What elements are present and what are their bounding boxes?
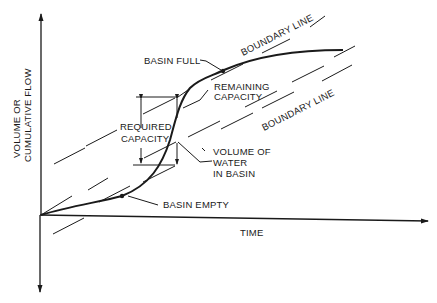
y-axis xyxy=(40,14,41,292)
diagram-canvas: VOLUME OR CUMULATIVE FLOW TIME BASIN FUL… xyxy=(0,0,437,303)
y-axis-label-line1: VOLUME OR xyxy=(11,99,22,158)
required-capacity-label-line1: REQUIRED xyxy=(120,121,172,132)
x-axis xyxy=(40,215,428,221)
y-axis-label-line2: CUMULATIVE FLOW xyxy=(22,68,33,162)
volume-water-label-line1: VOLUME OF xyxy=(213,146,271,157)
basin-full-label: BASIN FULL xyxy=(144,55,200,66)
basin-empty-point xyxy=(120,194,124,198)
basin-full-point xyxy=(221,69,225,73)
volume-water-label-line2: WATER xyxy=(213,157,247,168)
cumulative-inflow-curve xyxy=(41,50,343,215)
required-capacity-label-line2: CAPACITY xyxy=(121,133,170,144)
x-axis-label: TIME xyxy=(240,227,264,238)
volume-water-label-line3: IN BASIN xyxy=(213,168,255,179)
boundary-line-middle xyxy=(41,46,355,215)
mass-curve-diagram: VOLUME OR CUMULATIVE FLOW TIME BASIN FUL… xyxy=(0,0,437,303)
remaining-capacity-label-line2: CAPACITY xyxy=(214,91,263,102)
basin-empty-label: BASIN EMPTY xyxy=(163,199,230,210)
